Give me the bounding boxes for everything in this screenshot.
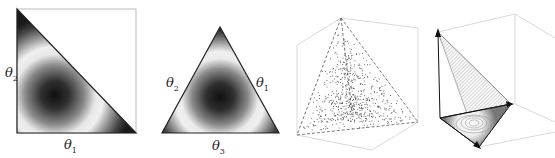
panel3-scatter-points	[303, 35, 410, 131]
panel1-label-theta1: θ1	[64, 138, 77, 155]
panel1-label-theta2: θ2	[5, 66, 18, 83]
panel2-label-theta2: θ2	[166, 76, 179, 93]
axis-arrow-up-icon	[435, 28, 441, 37]
figure-canvas	[0, 0, 555, 158]
panel-tetrahedron-scatter	[297, 18, 418, 150]
panel2-label-theta3: θ3	[212, 139, 225, 156]
panel-3d-contour	[435, 14, 555, 149]
panel-right-simplex	[10, 5, 140, 135]
panel2-label-theta1: θ1	[256, 76, 269, 93]
panel3-box	[297, 18, 418, 150]
